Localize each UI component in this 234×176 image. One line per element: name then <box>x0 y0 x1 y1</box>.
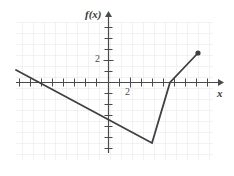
y-axis-label: f(x) <box>85 9 102 20</box>
coordinate-plane <box>0 0 234 176</box>
y-axis-tick-label-2: 2 <box>95 54 100 64</box>
graph-figure: f(x) x 2 2 <box>0 0 234 176</box>
y-axis-arrow <box>105 11 112 17</box>
grid-area <box>16 22 213 160</box>
x-axis-arrow <box>218 79 224 86</box>
x-axis-label: x <box>217 88 223 99</box>
endpoint-dot <box>195 50 200 55</box>
x-axis-tick-label-2: 2 <box>125 87 130 97</box>
